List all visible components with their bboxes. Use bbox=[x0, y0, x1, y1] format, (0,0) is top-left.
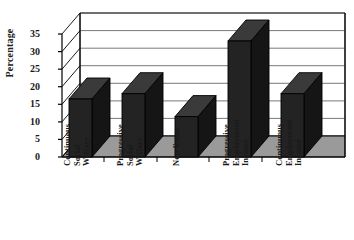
x-label-line: Welfare bbox=[135, 124, 145, 166]
x-label-line: Income bbox=[294, 119, 304, 166]
y-tick-0: 0 bbox=[18, 152, 40, 162]
bar-chart: Percentage bbox=[0, 0, 354, 240]
x-label-progressive-employment-income: Progressive Employment Income bbox=[222, 119, 251, 166]
x-label-continuous-employment-income: Continuous Employment Income bbox=[275, 119, 304, 166]
y-tick-5: 5 bbox=[18, 134, 40, 144]
y-tick-10: 10 bbox=[18, 117, 40, 127]
plot-area: 35 30 25 20 15 10 5 0 Continuous Social … bbox=[0, 0, 354, 240]
x-label-non-linear: Non-linear bbox=[172, 127, 182, 166]
x-label-line: Income bbox=[241, 119, 251, 166]
x-label-continuous-social-welfare: Continuous Social Welfare bbox=[63, 124, 92, 166]
x-label-line: Welfare bbox=[82, 124, 92, 166]
y-tick-25: 25 bbox=[18, 64, 40, 74]
y-tick-15: 15 bbox=[18, 99, 40, 109]
y-axis-tick-labels: 35 30 25 20 15 10 5 0 bbox=[16, 0, 40, 170]
y-tick-30: 30 bbox=[18, 47, 40, 57]
x-label-line: Non-linear bbox=[172, 127, 182, 166]
y-tick-20: 20 bbox=[18, 82, 40, 92]
x-label-progressive-social-welfare: Progressive Social Welfare bbox=[116, 124, 145, 166]
y-tick-35: 35 bbox=[18, 29, 40, 39]
